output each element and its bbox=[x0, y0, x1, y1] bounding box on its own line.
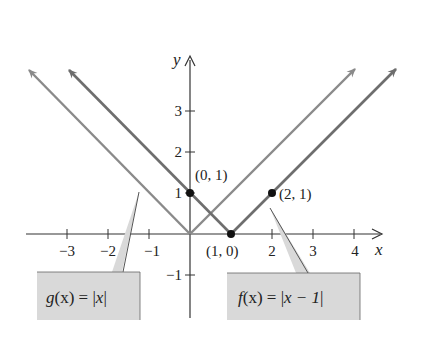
x-axis-label: x bbox=[374, 240, 383, 259]
f-label: f(x) = |x − 1| bbox=[238, 288, 324, 307]
y-tick-label: −1 bbox=[166, 267, 182, 283]
g-right-branch bbox=[190, 69, 355, 234]
g-left-branch bbox=[29, 70, 190, 234]
g-callout-pointer bbox=[123, 192, 139, 272]
point-label: (0, 1) bbox=[195, 167, 228, 184]
y-tick-label: 2 bbox=[175, 144, 183, 160]
f-label-callout: f(x) = |x − 1| bbox=[227, 208, 360, 320]
x-tick-label: 2 bbox=[268, 243, 276, 259]
absolute-value-graph: −3 −2 −1 2 3 4 −1 1 2 3 x y (0, 1) (1, 0… bbox=[0, 0, 431, 341]
point-label: (2, 1) bbox=[279, 186, 312, 203]
g-label-callout: g(x) = |x| bbox=[37, 192, 140, 320]
x-tick-label: 3 bbox=[309, 243, 317, 259]
y-axis-label: y bbox=[171, 50, 181, 69]
f-right-branch bbox=[231, 69, 396, 234]
y-tick-label: 1 bbox=[175, 185, 183, 201]
x-tick-label: −1 bbox=[144, 243, 160, 259]
x-tick-label: 4 bbox=[351, 243, 359, 259]
point-1-0 bbox=[227, 230, 235, 238]
g-label: g(x) = |x| bbox=[46, 288, 107, 307]
y-tick-label: 3 bbox=[175, 103, 183, 119]
point-2-1 bbox=[268, 189, 276, 197]
f-callout-pointer bbox=[270, 208, 308, 273]
point-label: (1, 0) bbox=[206, 243, 239, 260]
graph-f bbox=[69, 69, 396, 234]
point-0-1 bbox=[186, 189, 194, 197]
x-tick-label: −3 bbox=[59, 243, 75, 259]
f-left-branch bbox=[69, 70, 231, 234]
x-tick-label: −2 bbox=[100, 243, 116, 259]
